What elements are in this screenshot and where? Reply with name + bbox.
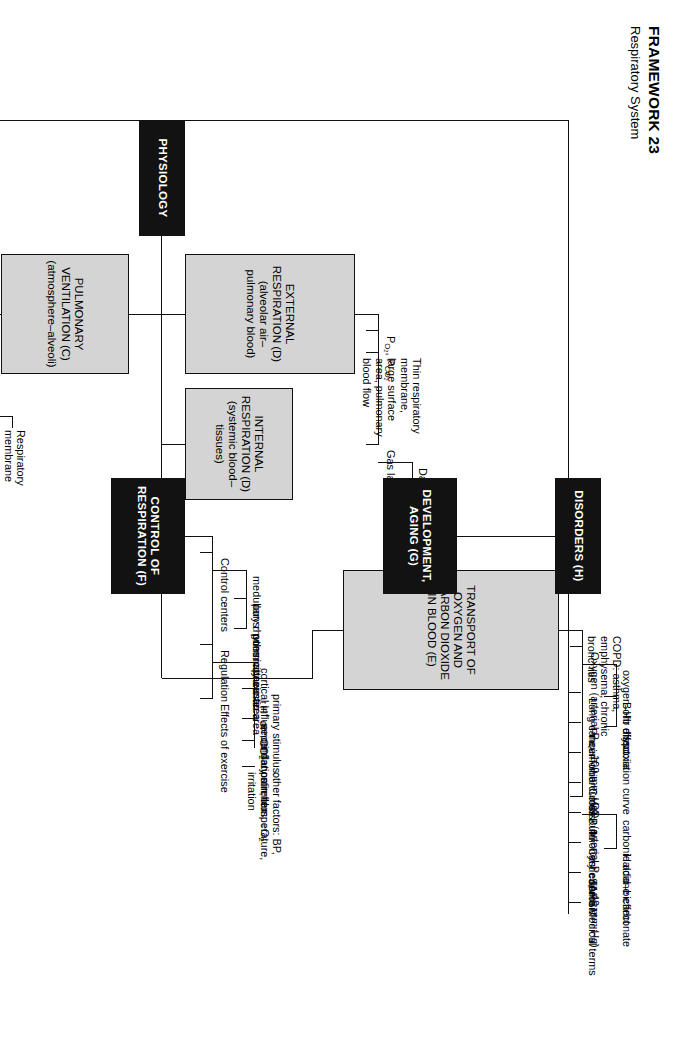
dis-tick-7 — [568, 872, 581, 873]
node-physiology-label: PHYSIOLOGY — [155, 134, 168, 221]
node-development-aging[interactable]: DEVELOPMENT, AGING (G) — [383, 478, 457, 594]
dis-leaf-stem — [568, 594, 569, 614]
dis-tick-5 — [568, 812, 581, 813]
node-external-respiration[interactable]: EXTERNAL RESPIRATION (D) (alveolar air–p… — [185, 254, 355, 374]
development-connector — [457, 536, 569, 537]
node-external-respiration-line2: (alveolar air–pulmonary blood) — [245, 270, 270, 359]
framework-diagram: FRAMEWORK 23 Respiratory System ANATOMY … — [0, 0, 685, 1040]
er-connector — [162, 314, 185, 315]
dis-tick-1 — [568, 692, 581, 693]
disorders-spine-link — [568, 120, 569, 478]
node-development-line2: AGING (G) — [408, 506, 420, 566]
dis-tick-2 — [568, 722, 581, 723]
er-leaf-tick-1 — [366, 352, 379, 353]
node-transport-line1: TRANSPORT OF OXYGEN AND — [452, 585, 477, 675]
ctrl-leaf-stem — [185, 536, 213, 537]
ctrl-centers-base — [246, 570, 247, 628]
node-pulmonary-ventilation-line2: (atmosphere–alveoli) — [46, 260, 58, 367]
ctrl-leaf-4: Regulation — [219, 650, 231, 702]
dis-tick-0 — [568, 630, 581, 631]
ctrl-centers-tick-1 — [234, 598, 247, 599]
dis-tick-4 — [568, 782, 581, 783]
er-sub-tick-0 — [400, 462, 413, 463]
transport-riser — [162, 678, 313, 679]
transport-connector-drop — [313, 630, 343, 631]
ctrl-centers-tick-0 — [234, 570, 247, 571]
er-leaf-stem — [355, 314, 379, 315]
pv-connector — [128, 314, 162, 315]
node-control-line1: CONTROL OF — [149, 497, 161, 576]
transport-connector — [312, 630, 313, 678]
dis-leaf-7: SARS — [587, 878, 599, 908]
tr-leaf-tick-0 — [570, 646, 583, 647]
dis-leaf-8: Medical terms — [587, 908, 599, 976]
dis-tick-8 — [568, 902, 581, 903]
node-internal-respiration-line1: INTERNAL RESPIRATION (D) — [240, 396, 265, 492]
ctrl-tick-centers — [200, 552, 213, 553]
er-leaf-tick-0 — [366, 330, 379, 331]
tr-leaf-6: Haldane effect — [621, 854, 633, 924]
node-disorders-label: DISORDERS (H) — [571, 486, 584, 585]
node-pulmonary-ventilation-line1: PULMONARY VENTILATION (C) — [60, 267, 85, 361]
page-title: FRAMEWORK 23 Respiratory System — [628, 26, 663, 154]
framework-number: FRAMEWORK 23 — [645, 26, 663, 154]
ctrl-centers-tick-2 — [234, 628, 247, 629]
lower-leaf-5: Respiratory membrane — [2, 430, 27, 500]
ctrl-leaf-9: other factors: BP, pain, temperature, ir… — [246, 772, 283, 872]
node-disorders[interactable]: DISORDERS (H) — [555, 478, 601, 594]
node-external-respiration-line1: EXTERNAL RESPIRATION (D) — [271, 266, 296, 362]
dis-tick-6 — [568, 842, 581, 843]
tr-leaf-tick-4 — [570, 796, 583, 797]
ctrl-leaf-10: Effects of exercise — [219, 704, 231, 793]
tr-leaf-bus — [582, 630, 583, 796]
dis-tick-3 — [568, 752, 581, 753]
ctrl-tick-exercise — [200, 698, 213, 699]
tr-co2-tick-1 — [604, 848, 617, 849]
node-transport-line2: CARBON DIOXIDE IN BLOOD (E) — [426, 580, 451, 680]
ctrl-reg-tick-3 — [242, 740, 255, 741]
ctrl-reg-tick-4 — [242, 766, 255, 767]
er-leaf-1: Thin respiratory membrane, large surface… — [361, 358, 423, 440]
node-internal-respiration-line2: (systemic blood–tissues) — [214, 401, 239, 487]
node-control-line2: RESPIRATION (F) — [136, 486, 148, 586]
ir-connector — [162, 444, 185, 445]
er-leaf-tick-2 — [366, 444, 379, 445]
node-development-line1: DEVELOPMENT, — [421, 489, 433, 582]
node-physiology[interactable]: PHYSIOLOGY — [139, 120, 185, 236]
ctrl-leaf-bus — [212, 536, 213, 698]
node-pulmonary-ventilation[interactable]: PULMONARY VENTILATION (C) (atmosphere–al… — [1, 254, 129, 374]
ctrl-tick-regulation — [200, 644, 213, 645]
tr-co2-tick-0 — [604, 814, 617, 815]
tr-co2-sub-base — [616, 814, 617, 848]
framework-subtitle: Respiratory System — [628, 26, 643, 154]
node-internal-respiration[interactable]: INTERNAL RESPIRATION (D) (systemic blood… — [185, 388, 293, 500]
trunk-line — [0, 120, 569, 121]
dis-leaf-bus — [568, 614, 569, 914]
node-control-of-respiration[interactable]: CONTROL OF RESPIRATION (F) — [111, 478, 185, 594]
ctrl-leaf-0: Control centers — [219, 558, 231, 632]
lower-leaf-tick-5 — [12, 416, 13, 428]
